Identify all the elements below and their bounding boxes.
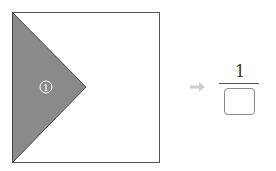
region-label: 1 [43, 82, 49, 93]
diagram: 1 [0, 0, 276, 171]
arrow-icon [190, 82, 205, 92]
fraction-bar [219, 83, 259, 84]
denominator-input[interactable] [224, 88, 255, 115]
numerator: 1 [222, 62, 258, 81]
